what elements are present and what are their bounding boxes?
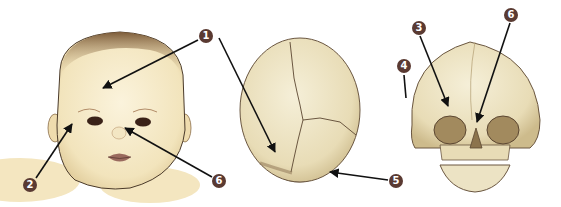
callout-marker-5: 5 <box>389 174 403 188</box>
callout-marker-4: 4 <box>397 59 411 73</box>
callout-marker-6-skull: 6 <box>504 8 518 22</box>
callout-marker-3: 3 <box>412 21 426 35</box>
callout-marker-6-face: 6 <box>212 174 226 188</box>
callout-marker-2: 2 <box>23 178 37 192</box>
callout-marker-1: 1 <box>199 29 213 43</box>
skull-top-view-illustration <box>240 38 360 182</box>
diagram-canvas: 1 2 3 4 5 6 6 <box>0 0 561 207</box>
